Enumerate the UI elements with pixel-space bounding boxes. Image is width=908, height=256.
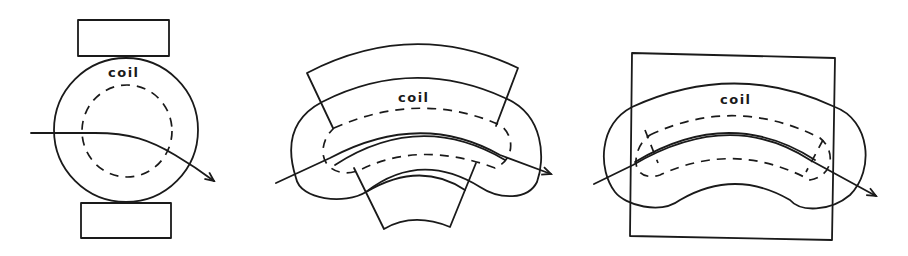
- coil-inner-outline: [335, 136, 505, 165]
- bottom-pole-rect: [81, 203, 171, 238]
- coil-dashed-path: [636, 116, 830, 180]
- coil-label: coil: [398, 90, 430, 105]
- diagram-canvas: coil coil coil: [0, 0, 908, 256]
- coil-dashed-path: [323, 108, 511, 173]
- square-yoke: [630, 53, 835, 240]
- lower-sector-inner-arc: [366, 175, 465, 192]
- top-pole-rect: [78, 20, 169, 56]
- coil-inner-dashed-circle: [82, 85, 172, 177]
- upper-sector-pole: [307, 44, 518, 128]
- figure-circular-coil: coil: [31, 20, 214, 238]
- figure-curved-sector-coil: coil: [276, 44, 551, 229]
- coil-label: coil: [108, 65, 140, 80]
- figure-kidney-coil-in-square: coil: [594, 53, 876, 240]
- lower-sector-pole: [354, 163, 476, 229]
- coil-label: coil: [720, 92, 752, 107]
